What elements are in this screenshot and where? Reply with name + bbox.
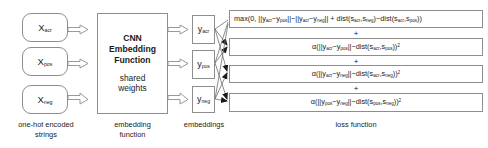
loss-plus-separator-1: + <box>229 30 483 38</box>
formula-anchor-positive: α(||yacr−ypos||−dist(sacr,spos))2 <box>312 43 400 52</box>
loss-term-positive-negative: α(||ypos−yneg||−dist(spos,sneg))2 <box>229 93 483 112</box>
input-label-negative: Xneg <box>37 94 52 105</box>
subscript: pos <box>280 18 287 23</box>
subscript: pos <box>373 101 380 106</box>
embedding-to-loss-wires <box>215 20 228 101</box>
caption-inputs: one-hot encoded strings <box>2 120 90 139</box>
caption-inputs-line-2: strings <box>2 130 90 140</box>
subscript: neg <box>340 101 348 106</box>
caption-embedding-function: embedding function <box>95 120 170 139</box>
embedding-box-positive: ypos <box>192 50 215 79</box>
cnn-embedding-function-box: CNN Embedding Function shared weights <box>97 13 168 114</box>
triplet-network-diagram: Xacr Xpos Xneg CNN Embedding Function sh… <box>0 0 488 148</box>
cnn-to-embedding-arrows <box>168 25 188 104</box>
subscript: neg <box>340 73 348 78</box>
embedding-label-negative: yneg <box>197 94 210 105</box>
input-base-negative: X <box>37 94 43 105</box>
cnn-title: CNN Embedding Function <box>109 33 156 65</box>
shared-weights-note: shared weights <box>118 73 146 94</box>
cnn-title-line-2: Embedding <box>109 44 156 55</box>
formula-positive-negative: α(||ypos−yneg||−dist(spos,sneg))2 <box>311 98 401 107</box>
input-label-positive: Xpos <box>38 56 53 67</box>
embedding-sub-anchor: acr <box>202 28 209 34</box>
caption-loss-function: loss function <box>229 120 483 130</box>
subscript: acr <box>326 73 332 78</box>
formula-anchor-negative: α(||yacr−yneg||−dist(sacr,sneg))2 <box>312 70 400 79</box>
subscript: neg <box>317 18 325 23</box>
subscript: acr <box>266 18 272 23</box>
subscript: acr <box>373 73 379 78</box>
cnn-title-line-3: Function <box>109 55 156 66</box>
superscript: 2 <box>397 43 400 48</box>
input-to-cnn-arrows <box>68 25 88 104</box>
loss-term-triplet-margin: max(0, ||yacr−ypos||−||yacr−yneg|| + dis… <box>229 10 483 28</box>
subscript: acr <box>326 46 332 51</box>
embedding-base-negative: y <box>197 94 202 104</box>
shared-weights-line-2: weights <box>118 83 146 94</box>
input-sub-anchor: acr <box>45 27 52 33</box>
loss-plus-separator-3: + <box>229 85 483 93</box>
subscript: neg <box>386 101 394 106</box>
input-box-negative: Xneg <box>22 85 68 114</box>
input-base-anchor: X <box>38 22 44 33</box>
cnn-title-line-1: CNN <box>109 33 156 44</box>
subscript: pos <box>325 101 332 106</box>
caption-embeddings: embeddings <box>178 120 230 130</box>
embedding-label-positive: ypos <box>197 59 210 70</box>
formula-triplet-margin: max(0, ||yacr−ypos||−||yacr−yneg|| + dis… <box>234 15 422 24</box>
caption-embedding-function-line-2: function <box>95 130 170 140</box>
input-label-anchor: Xacr <box>38 22 52 33</box>
subscript: acr <box>303 18 309 23</box>
subscript: acr <box>398 18 404 23</box>
input-box-anchor: Xacr <box>22 13 68 42</box>
embedding-box-anchor: yacr <box>192 15 215 44</box>
subscript: neg <box>385 73 393 78</box>
subscript: acr <box>373 46 379 51</box>
input-sub-negative: neg <box>44 99 53 105</box>
subscript: pos <box>410 18 417 23</box>
caption-embedding-function-line-1: embedding <box>95 120 170 130</box>
input-sub-positive: pos <box>44 61 53 67</box>
subscript: neg <box>366 18 374 23</box>
input-base-positive: X <box>38 56 44 67</box>
embedding-sub-positive: pos <box>202 63 210 69</box>
subscript: pos <box>340 46 347 51</box>
shared-weights-line-1: shared <box>118 73 146 84</box>
loss-term-anchor-positive: α(||yacr−ypos||−dist(sacr,spos))2 <box>229 38 483 56</box>
superscript: 2 <box>399 98 402 103</box>
input-box-positive: Xpos <box>22 47 68 76</box>
loss-term-anchor-negative: α(||yacr−yneg||−dist(sacr,sneg))2 <box>229 65 483 83</box>
embedding-sub-negative: neg <box>202 98 210 104</box>
superscript: 2 <box>398 70 401 75</box>
embedding-base-positive: y <box>197 59 202 69</box>
subscript: acr <box>354 18 360 23</box>
embedding-box-negative: yneg <box>192 86 215 113</box>
subscript: pos <box>385 46 392 51</box>
caption-inputs-line-1: one-hot encoded <box>2 120 90 130</box>
embedding-label-anchor: yacr <box>198 24 210 35</box>
